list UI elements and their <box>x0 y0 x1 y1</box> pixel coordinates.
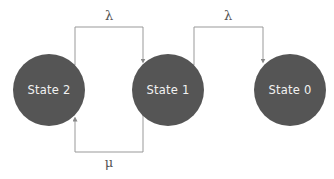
state-transition-diagram: λ λ μ State 2 State 1 State 0 <box>0 0 334 179</box>
edge-state1-to-state2 <box>75 115 143 152</box>
node-state-0: State 0 <box>254 54 326 126</box>
edge-state2-to-state1 <box>75 27 143 65</box>
edge-label-mu: μ <box>99 156 119 170</box>
node-label: State 0 <box>269 83 312 97</box>
edge-state1-to-state0 <box>194 27 263 65</box>
node-state-1: State 1 <box>132 54 204 126</box>
node-state-2: State 2 <box>13 54 85 126</box>
edge-label-lambda-1: λ <box>99 9 119 23</box>
edge-label-lambda-2: λ <box>218 9 238 23</box>
node-label: State 1 <box>147 83 190 97</box>
node-label: State 2 <box>28 83 71 97</box>
